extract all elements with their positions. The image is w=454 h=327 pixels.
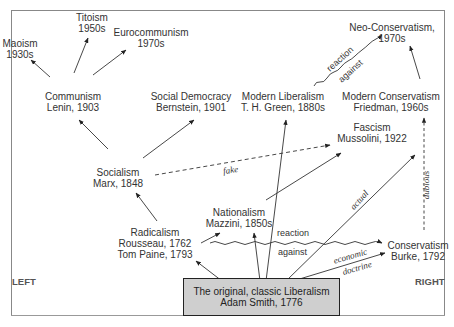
- node-date: Mazzini, 1850s: [206, 218, 273, 229]
- right-axis-label: RIGHT: [415, 276, 445, 287]
- root-node-classic-liberalism: The original, classic Liberalism Adam Sm…: [183, 278, 340, 316]
- edge-communism-titoism: [74, 38, 88, 73]
- node-date: 1970s: [349, 33, 435, 44]
- node-date: Tom Paine, 1793: [117, 249, 192, 260]
- node-title: Modern Conservatism: [342, 91, 440, 102]
- node-nationalism: Nationalism Mazzini, 1850s: [206, 207, 273, 229]
- node-title: Titoism: [76, 12, 108, 23]
- node-date: Bernstein, 1901: [151, 102, 232, 113]
- node-title: Communism: [45, 91, 101, 102]
- node-date: Burke, 1792: [387, 251, 448, 262]
- node-title: Modern Liberalism: [241, 91, 325, 102]
- edge-label-reaction-lower: reaction: [277, 228, 309, 238]
- edge-label-dubious: dubious: [421, 171, 431, 200]
- node-neo-conservatism: Neo-Conservatism, 1970s: [349, 22, 435, 44]
- node-date: T. H. Green, 1880s: [241, 102, 325, 113]
- node-date: 1950s: [76, 23, 108, 34]
- node-social-democracy: Social Democracy Bernstein, 1901: [151, 91, 232, 113]
- node-title: Fascism: [337, 122, 406, 133]
- edge-radicalism-socialism: [136, 193, 157, 221]
- node-title: Neo-Conservatism,: [349, 22, 435, 33]
- node-radicalism: Radicalism Rousseau, 1762 Tom Paine, 179…: [117, 227, 192, 260]
- node-date: Mussolini, 1922: [337, 133, 406, 144]
- node-date: Friedman, 1960s: [342, 102, 440, 113]
- node-title: Eurocommunism: [113, 27, 188, 38]
- node-date: 1930s: [2, 49, 37, 60]
- node-conservatism: Conservatism Burke, 1792: [387, 240, 448, 262]
- node-communism: Communism Lenin, 1903: [45, 91, 101, 113]
- node-title: Radicalism: [117, 227, 192, 238]
- edge-communism-eurocommunism: [93, 50, 126, 75]
- edge-socialism-communism: [79, 120, 108, 149]
- edge-socialism-socialdemocracy: [143, 120, 194, 158]
- node-modern-liberalism: Modern Liberalism T. H. Green, 1880s: [241, 91, 325, 113]
- root-date: Adam Smith, 1776: [184, 297, 339, 308]
- node-title: Conservatism: [387, 240, 448, 251]
- node-modern-conservatism: Modern Conservatism Friedman, 1960s: [342, 91, 440, 113]
- node-title: Socialism: [93, 167, 143, 178]
- node-date: Lenin, 1903: [45, 102, 101, 113]
- node-socialism: Socialism Marx, 1848: [93, 167, 143, 189]
- node-fascism: Fascism Mussolini, 1922: [337, 122, 406, 144]
- node-date: Marx, 1848: [93, 178, 143, 189]
- node-title: Social Democracy: [151, 91, 232, 102]
- left-axis-label: LEFT: [12, 276, 36, 287]
- node-date: Rousseau, 1762: [117, 238, 192, 249]
- edge-communism-maoism: [31, 60, 50, 77]
- edge-label-fake: fake: [222, 164, 238, 176]
- node-title: Nationalism: [206, 207, 273, 218]
- edge-modernconservatism-neoconservatism: [410, 46, 420, 79]
- edge-root-nationalism: [254, 233, 260, 281]
- node-titoism: Titoism 1950s: [76, 12, 108, 34]
- root-title: The original, classic Liberalism: [184, 286, 339, 297]
- node-title: Maoism: [2, 38, 37, 49]
- node-date: 1970s: [113, 38, 188, 49]
- edge-label-against-lower: against: [278, 247, 307, 257]
- edge-nationalism-fascism: [266, 153, 341, 200]
- edge-root-fascism-actual: [286, 155, 415, 281]
- node-maoism: Maoism 1930s: [2, 38, 37, 60]
- node-eurocommunism: Eurocommunism 1970s: [113, 27, 188, 49]
- edge-socialism-fascism: [155, 145, 330, 175]
- edge-reaction-against-lower: [210, 242, 382, 245]
